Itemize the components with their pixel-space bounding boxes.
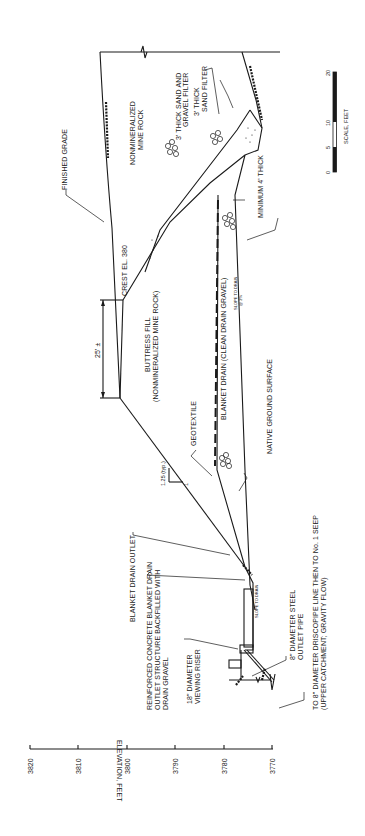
top-break-line bbox=[100, 46, 280, 58]
slope-ratio-one: 1 bbox=[183, 483, 189, 486]
label-concrete-3: DRAIN GRAVEL bbox=[162, 657, 169, 710]
scale-label: SCALE, FEET bbox=[343, 108, 349, 144]
elevation-axis: 3820 3810 3800 3790 3780 3770 ELEVATION,… bbox=[27, 740, 276, 802]
label-driscopipe-2: (UPPER CATCHMENT; GRAVITY FLOW) bbox=[320, 577, 328, 710]
label-minimum-thick: MINIMUM 4' THICK bbox=[257, 155, 264, 218]
label-riser-1: 18" DIAMETER bbox=[186, 654, 193, 704]
slope-note-2: SLOPE TO DRAIN bbox=[254, 584, 259, 618]
slope-ratio-label: 1.25 (typ.) bbox=[160, 461, 166, 486]
dimension-25ft: 25' ± bbox=[94, 300, 123, 398]
scale-tick-10: 10 bbox=[325, 120, 331, 126]
label-crest: CREST EL. 380 bbox=[121, 245, 128, 296]
axis-tick-3800: 3800 bbox=[124, 758, 131, 774]
label-sand-gravel-2: GRAVEL FILTER bbox=[182, 73, 189, 127]
scale-tick-5: 5 bbox=[325, 146, 331, 149]
slope-ratio: 1.25 (typ.) 1 bbox=[160, 461, 189, 486]
label-steel-pipe-2: OUTLET PIPE bbox=[297, 613, 304, 660]
dimension-label: 25' ± bbox=[94, 343, 101, 358]
label-nonmineralized-1: NONMINERALIZED bbox=[129, 101, 136, 165]
scale-tick-20: 20 bbox=[325, 70, 331, 76]
upper-native-ground bbox=[242, 52, 262, 128]
label-blanket-drain: BLANKET DRAIN (CLEAN DRAIN GRAVEL) bbox=[220, 278, 228, 420]
label-steel-pipe-1: 8" DIAMETER STEEL bbox=[289, 590, 296, 660]
label-driscopipe-1: TO 8" DIAMETER DRISCOPIPE LINE THEN TO N… bbox=[312, 515, 319, 710]
crest-line bbox=[120, 300, 123, 398]
slope-note-1-pct: @ 2% bbox=[238, 295, 243, 306]
axis-tick-3820: 3820 bbox=[27, 758, 34, 774]
label-concrete-1: REINFORCED CONCRETE BLANKET DRAIN bbox=[146, 562, 153, 710]
scale-tick-0: 0 bbox=[325, 171, 331, 174]
label-sand-gravel-1: 3' THICK SAND AND bbox=[175, 73, 182, 140]
sand-gravel-filter-outer bbox=[145, 110, 250, 272]
label-nonmineralized-2: MINE ROCK bbox=[137, 109, 144, 150]
axis-tick-3810: 3810 bbox=[75, 758, 82, 774]
scale-bar: 0 5 10 20 SCALE, FEET bbox=[325, 70, 349, 174]
outlet-structure bbox=[229, 565, 275, 690]
label-finished-grade: FINISHED GRADE bbox=[61, 129, 68, 190]
label-sand-filter-1: 3' THICK bbox=[193, 87, 200, 116]
label-riser-2: VIEWING RISER bbox=[194, 649, 201, 704]
axis-label: ELEVATION, FEET bbox=[116, 740, 123, 802]
axis-tick-3770: 3770 bbox=[269, 758, 276, 774]
label-sand-filter-2: SAND FILTER bbox=[201, 66, 208, 112]
label-concrete-2: OUTLET STRUCTURE BACKFILLED WITH bbox=[154, 570, 161, 710]
cross-section-drawing: 3820 3810 3800 3790 3780 3770 ELEVATION,… bbox=[0, 0, 365, 836]
label-native-ground: NATIVE GROUND SURFACE bbox=[266, 359, 273, 454]
label-geotextile: GEOTEXTILE bbox=[190, 401, 197, 446]
label-buttress-2: (NONMINERALIZED MINE ROCK) bbox=[152, 291, 160, 403]
axis-tick-3780: 3780 bbox=[221, 758, 228, 774]
axis-tick-3790: 3790 bbox=[172, 758, 179, 774]
label-blanket-outlet: BLANKET DRAIN OUTLET bbox=[129, 534, 136, 622]
label-buttress-1: BUTTRESS FILL bbox=[144, 317, 151, 372]
